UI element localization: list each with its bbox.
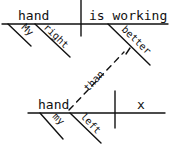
sub-verb: x <box>137 97 145 112</box>
better-tick <box>126 48 130 54</box>
main-subject: hand <box>18 8 49 23</box>
modifier-right: right <box>42 22 71 51</box>
sub-subject: hand <box>38 97 69 112</box>
main-verb: is working <box>89 8 167 23</box>
modifier-left: left <box>79 111 104 136</box>
connector-than: than <box>82 68 107 93</box>
sentence-diagram: hand is working My right better than han… <box>0 0 172 147</box>
